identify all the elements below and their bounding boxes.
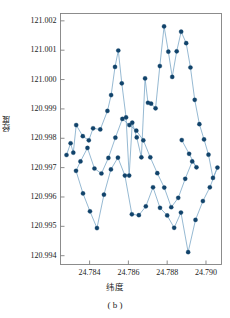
data-point-marker [201, 199, 205, 203]
data-point-marker [85, 146, 89, 150]
data-point-marker [120, 117, 124, 121]
data-point-marker [113, 136, 117, 140]
x-tick-label: 24.784 [68, 268, 112, 277]
data-point-marker [87, 138, 91, 142]
data-point-marker [206, 153, 210, 157]
data-point-marker [211, 176, 215, 180]
data-point-marker [123, 173, 127, 177]
data-point-marker [81, 134, 85, 138]
data-point-marker [172, 226, 176, 230]
data-point-marker [88, 209, 92, 213]
data-point-marker [143, 76, 147, 80]
y-tick-label: 120.996 [13, 192, 57, 201]
y-tick-label: 121.002 [13, 16, 57, 25]
data-point-marker [165, 213, 169, 217]
x-tick-label: 24.790 [184, 268, 228, 277]
data-point-marker [120, 81, 124, 85]
data-point-marker [68, 141, 72, 145]
data-point-marker [109, 93, 113, 97]
data-point-marker [202, 137, 206, 141]
data-point-marker [166, 50, 170, 54]
data-point-marker [74, 123, 78, 127]
data-point-marker [180, 138, 184, 142]
data-point-marker [197, 122, 201, 126]
y-tick-label: 120.995 [13, 221, 57, 230]
data-point-marker [151, 185, 155, 189]
y-tick-label: 121.001 [13, 45, 57, 54]
data-point-marker [193, 98, 197, 102]
data-point-marker [98, 127, 102, 131]
data-point-marker [169, 205, 173, 209]
data-point-marker [105, 109, 109, 113]
y-tick-label: 120.998 [13, 133, 57, 142]
data-point-marker [95, 226, 99, 230]
data-point-marker [116, 156, 120, 160]
data-point-marker [190, 159, 194, 163]
data-point-marker [155, 171, 159, 175]
figure-container: 经度 纬度 ( b ) 120.994120.995120.996120.997… [0, 0, 230, 318]
data-point-marker [64, 153, 68, 157]
data-point-marker [183, 177, 187, 181]
x-tick-label: 24.786 [106, 268, 150, 277]
data-point-marker [187, 152, 191, 156]
data-point-marker [134, 129, 138, 133]
y-tick-label: 120.994 [13, 251, 57, 260]
data-point-marker [130, 212, 134, 216]
data-point-marker [176, 196, 180, 200]
x-axis-title: 纬度 [0, 280, 230, 292]
y-tick-label: 121.000 [13, 75, 57, 84]
data-point-marker [99, 171, 103, 175]
data-point-marker [188, 65, 192, 69]
y-tick-label: 120.999 [13, 104, 57, 113]
plot-frame [61, 14, 222, 265]
panel-caption: ( b ) [0, 300, 230, 310]
data-point-marker [106, 156, 110, 160]
x-tick-label: 24.788 [145, 268, 189, 277]
data-point-marker [179, 210, 183, 214]
data-point-marker [127, 173, 131, 177]
data-point-marker [141, 138, 145, 142]
data-point-marker [71, 151, 75, 155]
data-point-marker [116, 48, 120, 52]
data-point-marker [92, 166, 96, 170]
data-point-marker [175, 49, 179, 53]
data-point-marker [78, 159, 82, 163]
data-point-marker [135, 135, 139, 139]
data-point-marker [158, 64, 162, 68]
data-point-marker [158, 206, 162, 210]
data-point-marker [193, 218, 197, 222]
data-point-marker [139, 155, 143, 159]
data-point-marker [162, 185, 166, 189]
y-axis-title: 经度 [2, 116, 16, 132]
data-point-marker [208, 185, 212, 189]
data-point-marker [113, 65, 117, 69]
data-point-marker [184, 41, 188, 45]
data-point-marker [179, 30, 183, 34]
data-point-marker [148, 155, 152, 159]
data-point-marker [149, 102, 153, 106]
data-point-marker [153, 106, 157, 110]
data-point-marker [186, 250, 190, 254]
data-point-marker [81, 191, 85, 195]
data-point-marker [215, 166, 219, 170]
data-point-marker [170, 75, 174, 79]
data-point-marker [102, 193, 106, 197]
data-point-marker [162, 24, 166, 28]
data-point-marker [194, 165, 198, 169]
data-point-marker [144, 204, 148, 208]
data-point-marker [74, 169, 78, 173]
data-point-marker [137, 213, 141, 217]
data-point-marker [127, 123, 131, 127]
y-tick-label: 120.997 [13, 163, 57, 172]
data-point-marker [91, 126, 95, 130]
data-point-marker [109, 167, 113, 171]
